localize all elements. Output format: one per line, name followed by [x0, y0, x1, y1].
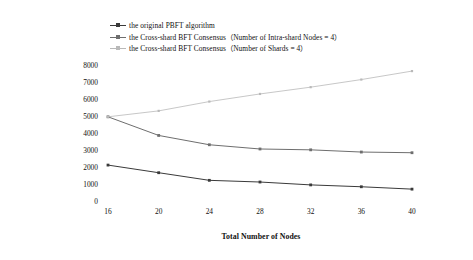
data-point-marker: [208, 100, 210, 102]
series-1: [107, 115, 414, 154]
data-point-marker: [360, 78, 362, 80]
data-point-marker: [310, 86, 312, 88]
data-point-marker: [360, 151, 363, 154]
series-line: [108, 165, 412, 189]
data-point-marker: [208, 179, 211, 182]
data-point-marker: [107, 116, 109, 118]
data-point-marker: [208, 143, 211, 146]
chart-figure: the original PBFT algorithm the Cross-sh…: [0, 0, 473, 260]
data-point-marker: [309, 184, 312, 187]
data-point-marker: [107, 164, 110, 167]
data-point-marker: [309, 148, 312, 151]
data-point-marker: [158, 110, 160, 112]
data-point-marker: [259, 148, 262, 151]
data-point-marker: [360, 185, 363, 188]
data-point-marker: [157, 134, 160, 137]
data-point-marker: [259, 181, 262, 184]
plot-area: [0, 0, 473, 260]
data-point-marker: [157, 171, 160, 174]
series-line: [108, 117, 412, 153]
data-point-marker: [411, 70, 413, 72]
data-point-marker: [411, 188, 414, 191]
series-2: [107, 70, 413, 118]
data-point-marker: [411, 151, 414, 154]
series-0: [107, 164, 414, 191]
data-point-marker: [259, 93, 261, 95]
